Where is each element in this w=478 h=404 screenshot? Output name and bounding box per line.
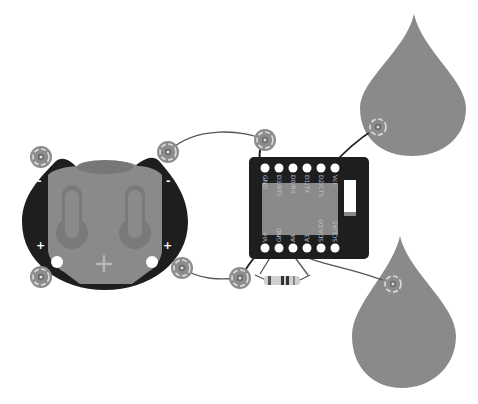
pin-label: A4 xyxy=(289,234,296,242)
pin-label: D3/RTS xyxy=(276,175,283,197)
snap-top-right xyxy=(157,141,179,163)
switch xyxy=(344,180,356,212)
drop-bottom xyxy=(352,236,456,388)
pin-label: D1/TX xyxy=(304,175,311,193)
pos-right-label: + xyxy=(163,239,172,252)
snap-board-bottom xyxy=(229,267,251,289)
pin-label: A3 xyxy=(303,234,310,242)
pos-left-label: + xyxy=(36,239,45,252)
pin-label: Vcc xyxy=(332,175,339,186)
battery-hole-right xyxy=(146,256,158,268)
pin-label: GND xyxy=(275,228,282,242)
pin-label: Vin xyxy=(261,232,268,242)
microcontroller-board: GND D3/RTS D0/RX D1/TX D2/CTS Vcc Vin GN… xyxy=(249,157,369,259)
center-plus-symbol: + xyxy=(93,248,115,278)
neg-right-label: - xyxy=(166,174,171,187)
battery-hole-left xyxy=(51,256,63,268)
pin-label: D0/RX xyxy=(290,175,297,194)
pin-label: SDA/D0 xyxy=(317,219,324,242)
resistor xyxy=(264,276,300,285)
pin-label: D2/CTS xyxy=(318,175,325,197)
snap-drop-bottom xyxy=(382,273,404,295)
circuit-diagram: + - - + + GND D3/RTS D0/RX xyxy=(0,0,478,404)
coin-cell-edge xyxy=(77,160,133,174)
neg-left-label: - xyxy=(37,174,42,187)
snap-bottom-right xyxy=(171,257,193,279)
snap-drop-top xyxy=(367,116,389,138)
pin-label: GND xyxy=(262,175,269,189)
pin-label: SCL/A5 xyxy=(331,221,338,242)
wire-battery-neg-to-gnd xyxy=(168,132,265,152)
snap-board-top xyxy=(254,129,276,151)
snap-bottom-left xyxy=(30,266,52,288)
snap-top-left xyxy=(30,146,52,168)
